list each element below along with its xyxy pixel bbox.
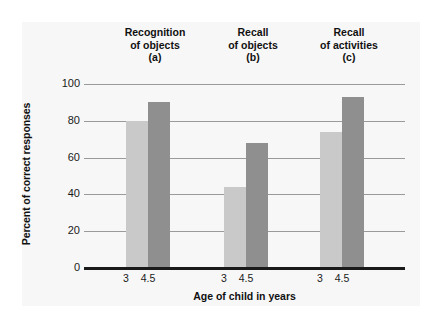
bar-c-age3 [320,132,342,268]
bar-chart-figure: 100 80 60 40 20 0 Percent of correct res… [0,0,438,326]
y-tick-label: 0 [36,261,80,273]
x-axis-title: Age of child in years [84,290,405,302]
y-tick-label: 100 [36,77,80,89]
y-axis-title: Percent of correct responses [20,84,32,264]
x-tick-a-age4-5: 4.5 [131,272,165,284]
x-tick-b-age4-5: 4.5 [229,272,263,284]
y-axis-ticks: 100 80 60 40 20 0 [32,84,80,268]
group-header-c-line2: of activities [290,39,408,52]
group-header-c: Recall of activities (c) [290,26,408,64]
bar-c-age4-5 [342,97,364,268]
bar-b-age3 [224,187,246,268]
y-tick-label: 40 [36,187,80,199]
group-header-c-line3: (c) [290,51,408,64]
bar-a-age3 [126,121,148,268]
bar-b-age4-5 [246,143,268,268]
group-header-c-line1: Recall [290,26,408,39]
plot-area [84,84,405,268]
y-tick-label: 60 [36,151,80,163]
gridline-100 [84,84,405,85]
bar-a-age4-5 [148,102,170,268]
x-tick-c-age4-5: 4.5 [325,272,359,284]
x-axis-line [84,267,405,270]
y-tick-label: 20 [36,224,80,236]
y-tick-label: 80 [36,114,80,126]
